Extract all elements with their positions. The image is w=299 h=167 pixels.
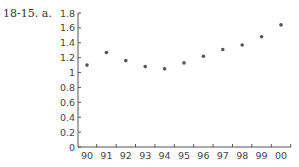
y-tick-label: 0.4 (60, 112, 75, 123)
x-tick-label: 93 (139, 150, 151, 161)
data-point (260, 35, 264, 39)
data-point (124, 59, 128, 63)
data-point (279, 23, 283, 27)
x-tick-label: 97 (217, 150, 229, 161)
y-tick-label: 0.6 (60, 97, 75, 108)
x-tick-label: 95 (178, 150, 190, 161)
data-point (202, 54, 206, 58)
x-tick-label: 92 (120, 150, 132, 161)
y-tick-label: 0 (69, 142, 75, 153)
x-tick-label: 90 (81, 150, 93, 161)
data-point (105, 51, 109, 55)
y-tick-label: 0.2 (60, 127, 75, 138)
x-tick-label: 96 (197, 150, 209, 161)
x-tick-label: 99 (256, 150, 268, 161)
x-tick-label: 00 (275, 150, 287, 161)
scatter-chart: 00.20.40.60.811.21.41.61.890919293949596… (0, 0, 299, 167)
x-tick-label: 91 (100, 150, 112, 161)
data-point (182, 61, 186, 65)
data-point (163, 67, 167, 71)
y-tick-label: 1.8 (60, 8, 75, 19)
data-point (85, 63, 89, 67)
y-tick-label: 1.6 (60, 22, 75, 33)
y-tick-label: 0.8 (60, 82, 75, 93)
data-point (143, 65, 147, 69)
x-tick-label: 94 (159, 150, 171, 161)
data-point (221, 48, 225, 52)
y-tick-label: 1.2 (60, 52, 75, 63)
y-tick-label: 1 (69, 67, 75, 78)
x-tick-label: 98 (236, 150, 248, 161)
data-point (240, 43, 244, 47)
y-tick-label: 1.4 (60, 37, 75, 48)
